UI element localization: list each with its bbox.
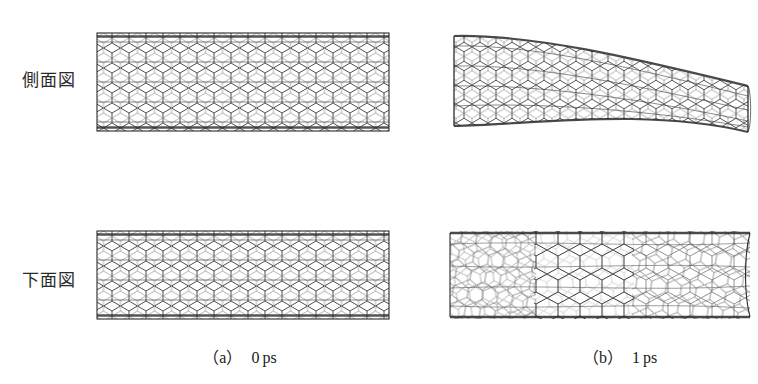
nanotube-a-bottom-view-graphic bbox=[95, 226, 391, 326]
nanotube-b-bottom-view-graphic bbox=[448, 226, 754, 326]
clipped-caption-strip bbox=[0, 370, 758, 384]
nanotube-a-side-view-graphic bbox=[95, 28, 391, 136]
caption-b-value: 1 bbox=[632, 349, 640, 366]
nanotube-b-side-view-graphic bbox=[448, 28, 754, 160]
caption-a-index: （a） bbox=[203, 349, 242, 366]
row-label-bottom-view: 下面図 bbox=[22, 266, 76, 291]
nanotube-a-bottom-view bbox=[95, 226, 391, 326]
figure-container: 側面図 下面図 bbox=[0, 0, 758, 384]
caption-a: （a）0ps bbox=[150, 344, 330, 368]
caption-b: （b）1ps bbox=[530, 344, 710, 368]
caption-b-index: （b） bbox=[583, 349, 623, 366]
caption-b-unit: ps bbox=[643, 349, 657, 366]
nanotube-b-bottom-view bbox=[448, 226, 754, 326]
nanotube-a-side-view bbox=[95, 28, 391, 136]
caption-a-value: 0 bbox=[251, 349, 259, 366]
nanotube-b-side-view bbox=[448, 28, 754, 160]
caption-a-unit: ps bbox=[262, 349, 276, 366]
row-label-side-view: 側面図 bbox=[22, 66, 76, 91]
